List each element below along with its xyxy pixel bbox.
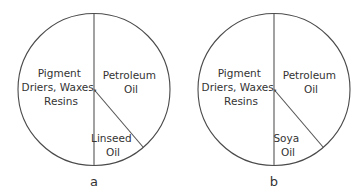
- chart-caption-b: b: [270, 174, 278, 189]
- pie-charts: Pigment Driers, Waxes, Resins Petroleum …: [0, 0, 362, 196]
- pie-chart-b: Pigment Driers, Waxes, Resins Petroleum …: [198, 14, 350, 190]
- pie-chart-a: Pigment Driers, Waxes, Resins Petroleum …: [18, 14, 170, 190]
- slice-label-pigment-a: Pigment Driers, Waxes, Resins: [22, 67, 101, 107]
- slice-label-soya-b: Soya Oil: [273, 132, 302, 158]
- slice-label-petroleum-b: Petroleum Oil: [283, 69, 340, 95]
- slice-label-petroleum-a: Petroleum Oil: [103, 69, 160, 95]
- chart-caption-a: a: [90, 174, 98, 189]
- slice-label-linseed-a: Linseed Oil: [91, 132, 135, 158]
- slice-label-pigment-b: Pigment Driers, Waxes, Resins: [202, 67, 281, 107]
